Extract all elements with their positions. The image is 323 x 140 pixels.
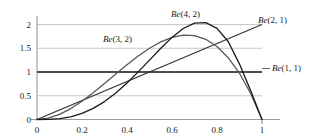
- x-tick-label-0.6: 0.6: [166, 125, 178, 135]
- y-tick-label-1.5: 1.5: [20, 43, 32, 53]
- y-tick-label-2: 2: [27, 20, 32, 30]
- curve-label-be-3-2-prefix: Be: [103, 34, 113, 44]
- curve-label-be-4-2-params: (4, 2): [181, 9, 201, 19]
- y-axis-tick-labels: 2 1.5 1 0.5 0: [20, 20, 32, 125]
- curve-label-be-3-2: Be(3, 2): [103, 34, 132, 44]
- curve-label-be-2-1-prefix: Be: [258, 15, 268, 25]
- y-tick-label-0: 0: [27, 115, 32, 125]
- y-tick-label-0.5: 0.5: [20, 91, 32, 101]
- axis-lines: [30, 16, 280, 120]
- curve-label-be-2-1-params: (2, 1): [268, 15, 288, 25]
- x-tick-label-1: 1: [260, 125, 265, 135]
- chart-canvas: 2 1.5 1 0.5 0 0 0.2 0.4 0.6 0.8 1 Be(4, …: [0, 0, 323, 140]
- curve-label-be-1-1-params: (1, 1): [282, 63, 302, 73]
- curve-label-be-1-1-prefix: Be: [272, 63, 282, 73]
- x-tick-label-0: 0: [35, 125, 40, 135]
- y-tick-label-1: 1: [27, 67, 32, 77]
- curve-label-be-3-2-params: (3, 2): [113, 34, 133, 44]
- curve-label-be-4-2: Be(4, 2): [171, 9, 200, 19]
- curve-label-be-4-2-prefix: Be: [171, 9, 181, 19]
- x-tick-label-0.8: 0.8: [211, 125, 223, 135]
- x-tick-label-0.2: 0.2: [76, 125, 87, 135]
- x-axis-tick-labels: 0 0.2 0.4 0.6 0.8 1: [35, 125, 265, 135]
- x-tick-label-0.4: 0.4: [121, 125, 133, 135]
- curve-annotations: Be(4, 2) Be(2, 1) Be(3, 2) Be(1, 1): [103, 9, 301, 73]
- curve-label-be-2-1: Be(2, 1): [258, 15, 287, 25]
- beta-density-chart-figure: 2 1.5 1 0.5 0 0 0.2 0.4 0.6 0.8 1 Be(4, …: [0, 0, 323, 140]
- curve-label-be-1-1: Be(1, 1): [272, 63, 301, 73]
